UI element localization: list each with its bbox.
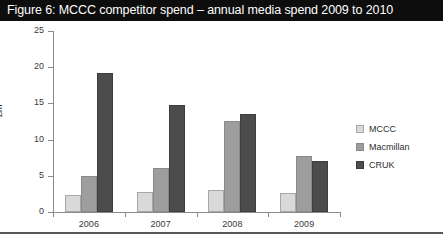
y-axis-tick-label: 15: [0, 97, 44, 107]
legend-swatch-icon: [356, 161, 364, 169]
bar-mccc-2007: [137, 192, 153, 212]
plot-area: [53, 31, 340, 212]
bar-cruk-2008: [240, 114, 256, 212]
x-axis-tick-label: 2007: [131, 219, 191, 229]
legend-swatch-icon: [356, 143, 364, 151]
y-axis-tick-label: 0: [0, 206, 44, 216]
bar-mccc-2008: [208, 190, 224, 212]
bottom-divider: [0, 232, 443, 234]
y-axis-tick-label: 25: [0, 25, 44, 35]
y-axis-tick-label: 20: [0, 61, 44, 71]
bar-cruk-2007: [169, 105, 185, 212]
chart-area: £m 0510152025 2006200720082009 MCCCMacmi…: [0, 21, 443, 221]
figure-container: Figure 6: MCCC competitor spend – annual…: [0, 0, 443, 242]
legend-swatch-icon: [356, 125, 364, 133]
legend-item-label: CRUK: [369, 160, 395, 170]
legend-item-macmillan: Macmillan: [356, 138, 441, 156]
x-axis-tick: [125, 213, 126, 217]
bar-mccc-2009: [280, 193, 296, 212]
legend-item-label: Macmillan: [369, 142, 410, 152]
x-axis-tick: [340, 213, 341, 217]
y-axis-tick-label: 10: [0, 134, 44, 144]
x-axis-tick: [53, 213, 54, 217]
x-axis-tick-label: 2006: [59, 219, 119, 229]
bar-macmillan-2006: [81, 176, 97, 212]
x-axis-tick: [268, 213, 269, 217]
legend-item-label: MCCC: [369, 124, 396, 134]
legend-item-cruk: CRUK: [356, 156, 441, 174]
x-axis-tick: [197, 213, 198, 217]
bar-macmillan-2009: [296, 156, 312, 212]
bar-mccc-2006: [65, 195, 81, 212]
bar-cruk-2006: [97, 73, 113, 212]
figure-title: Figure 6: MCCC competitor spend – annual…: [0, 0, 443, 21]
bar-cruk-2009: [312, 161, 328, 212]
legend-item-mccc: MCCC: [356, 120, 441, 138]
bar-macmillan-2008: [224, 121, 240, 212]
bar-macmillan-2007: [153, 168, 169, 212]
chart-legend: MCCCMacmillanCRUK: [356, 120, 441, 174]
x-axis-tick-label: 2009: [274, 219, 334, 229]
x-axis-tick-label: 2008: [202, 219, 262, 229]
y-axis-tick-label: 5: [0, 170, 44, 180]
